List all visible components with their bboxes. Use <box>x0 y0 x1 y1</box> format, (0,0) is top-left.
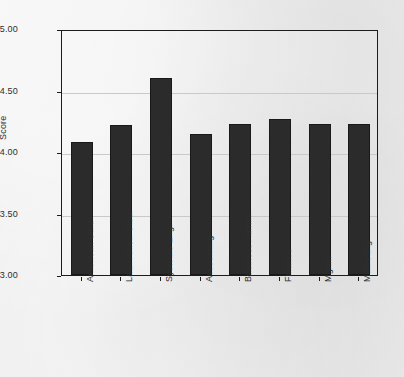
y-axis-tick-label: 3.50 <box>0 209 18 219</box>
x-axis-tick-mark <box>200 277 201 281</box>
x-axis-tick-label: Systems Eng. <box>164 224 174 282</box>
x-axis-tick-label: Latin Amer. Stud. <box>124 210 134 282</box>
gridline <box>62 93 377 94</box>
x-axis-tick-mark <box>358 277 359 281</box>
x-axis-tick-mark <box>120 277 121 281</box>
x-axis-tick-label: American Stud. <box>85 218 95 282</box>
y-axis-tick-label: 4.50 <box>0 86 18 96</box>
y-axis-title: Score <box>0 115 8 140</box>
x-axis-tick-label: Finance <box>283 249 293 282</box>
bar-chart-figure: Score 5.004.504.003.503.00 American Stud… <box>0 0 404 377</box>
y-axis-tick-label: 4.00 <box>0 147 18 157</box>
x-axis-tick-label: Accounting <box>204 235 214 282</box>
x-axis-tick-mark <box>319 277 320 281</box>
x-axis-tick-label: Mgmt. <box>323 256 333 282</box>
x-axis-tick-mark <box>239 277 240 281</box>
x-axis-tick-label: Business Admin. <box>243 212 253 282</box>
x-axis-tick-mark <box>160 277 161 281</box>
x-axis-tick-mark <box>279 277 280 281</box>
plot-area <box>61 30 378 276</box>
y-axis-tick-label: 5.00 <box>0 24 18 34</box>
y-axis-tick-label: 3.00 <box>0 270 18 280</box>
y-axis-tick-mark <box>57 276 61 277</box>
x-axis-tick-mark <box>81 277 82 281</box>
x-axis-tick-label: Marketing <box>362 241 372 282</box>
bar <box>309 124 331 275</box>
